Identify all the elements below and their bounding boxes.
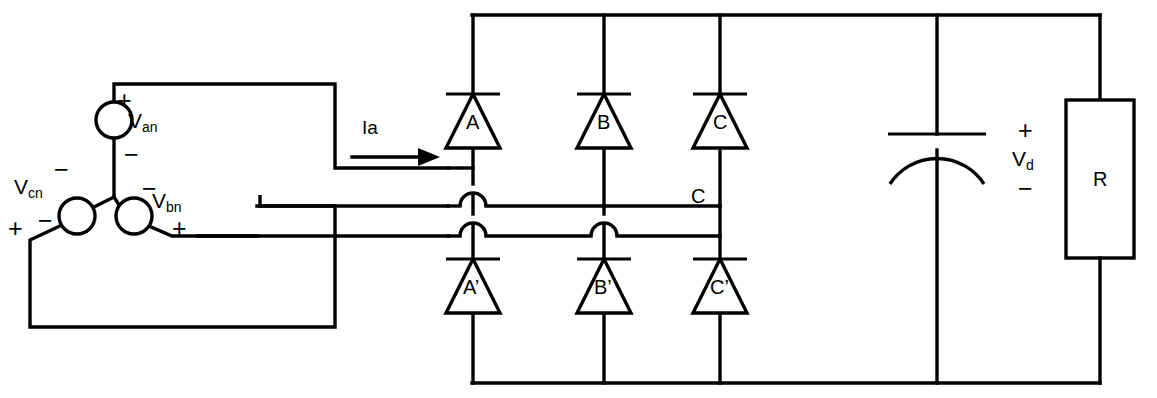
van-label: Van	[128, 110, 158, 131]
voltage-source-vbn	[116, 198, 152, 234]
load-resistor-label: R	[1093, 169, 1107, 189]
van-subscript: an	[142, 119, 158, 135]
phase-c-node-label: C	[691, 186, 705, 206]
van-symbol: V	[128, 109, 142, 132]
diode-b-prime-label: B’	[594, 277, 612, 297]
vd-label: Vd	[1012, 148, 1034, 169]
diode-c-prime-label: C’	[710, 277, 729, 297]
vcn-plus-sign: +	[8, 216, 23, 241]
current-label-ia: Ia	[362, 118, 378, 137]
vd-minus-sign: −	[1018, 176, 1033, 201]
van-minus-sign: −	[124, 142, 139, 167]
vcn-subscript: cn	[28, 185, 43, 201]
diode-c-label: C	[713, 112, 727, 132]
diode-a-prime-label: A’	[463, 277, 479, 297]
diode-b-label: B	[597, 112, 610, 132]
wire-neutral-to-vbn	[114, 197, 119, 205]
current-arrow-ia-head	[418, 148, 440, 166]
vcn-label: Vcn	[14, 176, 43, 197]
vbn-symbol: V	[152, 189, 166, 212]
vd-symbol: V	[1012, 147, 1026, 170]
vbn-subscript: bn	[166, 199, 182, 215]
vd-subscript: d	[1026, 157, 1034, 173]
vcn-inner-minus-sign: −	[38, 208, 53, 233]
voltage-source-vcn	[59, 198, 95, 234]
wire-neutral-to-vcn	[92, 197, 114, 208]
vbn-plus-sign: +	[172, 216, 187, 241]
diode-a-label: A	[466, 112, 479, 132]
vbn-label: Vbn	[152, 190, 182, 211]
vd-plus-sign: +	[1018, 118, 1033, 143]
circuit-diagram-canvas: + Van − − Vcn − + − Vbn + Ia A B C A’ B’…	[0, 0, 1157, 398]
vcn-symbol: V	[14, 175, 28, 198]
vcn-minus-sign: −	[54, 157, 69, 182]
